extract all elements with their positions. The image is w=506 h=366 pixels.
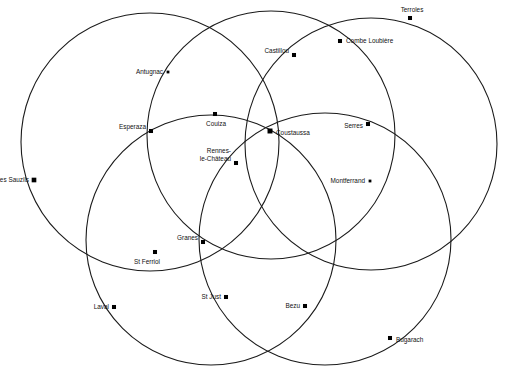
site-bugarach: Bugarach — [388, 336, 424, 344]
site-label-coustaussa: Coustaussa — [276, 129, 310, 136]
circle-southeast — [199, 113, 451, 365]
site-bezu: Bezu — [285, 302, 307, 309]
diagram-canvas: les SauzilsAntugnacEsperazaCouizaRennes-… — [0, 0, 506, 366]
site-label-st-ferriol: St Ferriol — [134, 258, 160, 265]
circle-northwest — [21, 13, 279, 271]
site-label-bezu: Bezu — [285, 302, 300, 309]
site-dot-esperaza — [149, 129, 153, 133]
circles-group — [21, 11, 497, 365]
site-dot-combe-loubiere — [338, 39, 342, 43]
site-montferrand: Montferrand — [331, 177, 372, 184]
site-dot-montferrand — [369, 180, 372, 183]
site-label-castillou: Castillou — [264, 47, 289, 54]
site-label-couiza: Couiza — [206, 120, 226, 127]
site-label-line: les Sauzils — [0, 176, 29, 183]
site-label-bugarach: Bugarach — [396, 336, 424, 344]
site-label-laval: Laval — [94, 303, 109, 310]
site-dot-castillou — [292, 53, 296, 57]
site-label-line: Serres — [344, 122, 363, 129]
site-label-line: le-Château — [200, 155, 232, 162]
site-label-antugnac: Antugnac — [136, 68, 164, 76]
site-serres: Serres — [344, 122, 370, 129]
site-label-line: Coustaussa — [276, 129, 310, 136]
site-dot-serres — [366, 122, 370, 126]
site-terroles: Terroles — [401, 6, 424, 20]
site-dot-bugarach — [388, 336, 392, 340]
site-label-esperaza: Esperaza — [119, 123, 146, 131]
site-dot-coustaussa — [268, 129, 273, 134]
site-label-line: Rennes- — [207, 147, 231, 154]
site-label-line: Esperaza — [119, 123, 146, 131]
site-points-group: les SauzilsAntugnacEsperazaCouizaRennes-… — [0, 6, 424, 344]
site-label-line: Laval — [94, 303, 109, 310]
site-label-rennes-le-chateau: Rennes-le-Château — [200, 147, 232, 162]
site-dot-laval — [112, 305, 116, 309]
site-label-line: St Ferriol — [134, 258, 160, 265]
site-label-line: Combe Loubière — [346, 37, 394, 44]
site-label-line: Bezu — [285, 302, 300, 309]
site-dot-antugnac — [167, 71, 170, 74]
site-dot-terroles — [408, 16, 412, 20]
site-dot-rennes-le-chateau — [234, 161, 238, 165]
site-label-line: Montferrand — [331, 177, 366, 184]
site-label-montferrand: Montferrand — [331, 177, 366, 184]
site-label-line: Granes — [177, 234, 198, 241]
site-les-sauzils: les Sauzils — [0, 176, 36, 183]
site-label-line: St Just — [201, 293, 221, 300]
site-couiza: Couiza — [206, 112, 226, 127]
site-laval: Laval — [94, 303, 116, 310]
site-label-line: Terroles — [401, 6, 424, 13]
site-dot-st-just — [224, 295, 228, 299]
site-label-terroles: Terroles — [401, 6, 424, 13]
site-label-line: Couiza — [206, 120, 226, 127]
site-rennes-le-chateau: Rennes-le-Château — [200, 147, 238, 165]
circle-northeast — [245, 18, 497, 270]
site-granes: Granes — [177, 234, 205, 244]
site-combe-loubiere: Combe Loubière — [338, 37, 394, 44]
site-st-ferriol: St Ferriol — [134, 250, 160, 265]
site-dot-granes — [201, 240, 205, 244]
site-label-serres: Serres — [344, 122, 363, 129]
site-label-st-just: St Just — [201, 293, 221, 300]
site-label-granes: Granes — [177, 234, 198, 241]
site-dot-st-ferriol — [153, 250, 157, 254]
circles-diagram: les SauzilsAntugnacEsperazaCouizaRennes-… — [0, 0, 506, 366]
site-dot-les-sauzils — [32, 178, 37, 183]
site-label-line: Castillou — [264, 47, 289, 54]
site-label-line: Bugarach — [396, 336, 424, 344]
site-label-les-sauzils: les Sauzils — [0, 176, 29, 183]
site-st-just: St Just — [201, 293, 228, 300]
site-dot-bezu — [303, 304, 307, 308]
site-label-line: Antugnac — [136, 68, 164, 76]
site-dot-couiza — [213, 112, 217, 116]
site-label-combe-loubiere: Combe Loubière — [346, 37, 394, 44]
site-castillou: Castillou — [264, 47, 296, 57]
